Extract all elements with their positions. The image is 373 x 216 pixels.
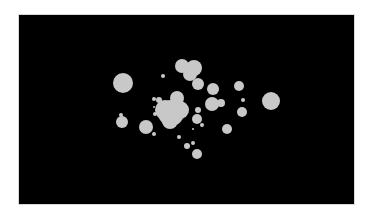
blob-circle <box>153 106 155 108</box>
blob-circle <box>162 113 178 129</box>
blob-circle <box>237 107 247 117</box>
blob-circle <box>184 143 190 149</box>
blob-circle <box>241 98 245 102</box>
blob-circle <box>217 99 225 107</box>
blob-circle <box>207 83 219 95</box>
blob-circle <box>192 78 204 90</box>
blob-circle <box>234 81 244 91</box>
blob-circle <box>116 116 128 128</box>
blob-circle <box>152 97 156 101</box>
blob-circle <box>156 97 162 103</box>
blob-circle <box>177 135 181 139</box>
blob-circle <box>152 132 156 136</box>
blob-circle <box>113 73 133 93</box>
blob-circle <box>195 107 201 113</box>
blob-circle <box>161 74 165 78</box>
blob-circle <box>139 120 153 134</box>
blob-circle <box>200 123 204 127</box>
blob-circle <box>191 141 195 145</box>
blob-circle <box>262 92 280 110</box>
blob-circle <box>153 112 157 116</box>
blob-circle <box>222 124 232 134</box>
blob-circle <box>192 149 202 159</box>
blob-circle <box>192 128 194 130</box>
image-panel <box>19 15 354 204</box>
blob-circle <box>119 113 123 117</box>
